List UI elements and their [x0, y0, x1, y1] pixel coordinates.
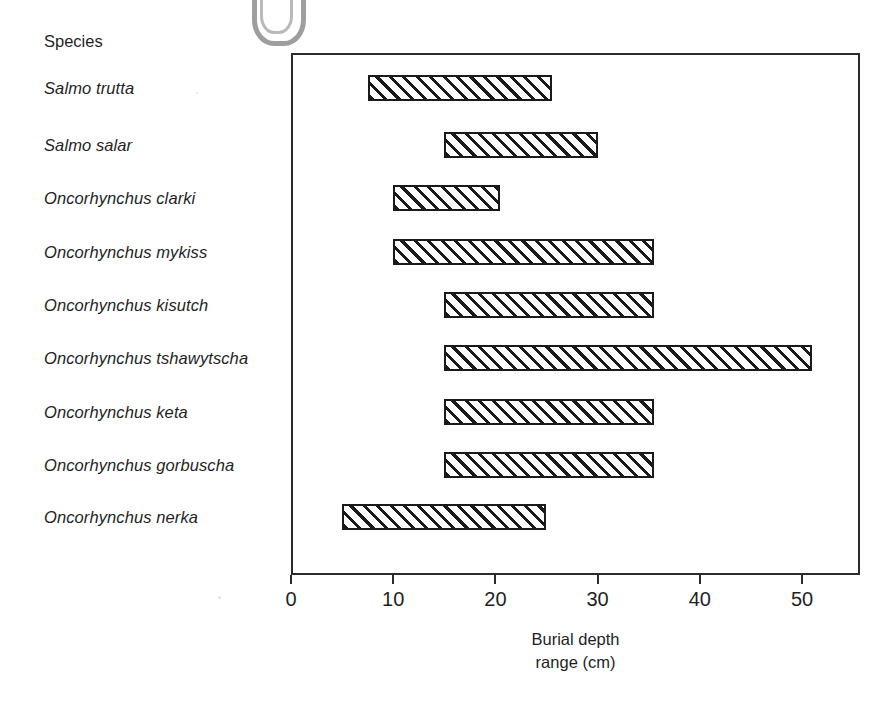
chart-page: Species Salmo truttaSalmo salarOncorhync…	[0, 0, 893, 712]
range-bar	[393, 185, 500, 211]
species-label: Oncorhynchus tshawytscha	[44, 349, 248, 368]
x-axis-tick	[699, 575, 701, 584]
species-label: Oncorhynchus keta	[44, 403, 188, 422]
x-axis-tick-label: 20	[484, 588, 506, 611]
range-bar	[444, 399, 654, 425]
x-axis-title: Burial depth range (cm)	[291, 628, 860, 674]
range-bar	[368, 75, 552, 101]
x-axis-title-line-2: range (cm)	[291, 651, 860, 674]
paperclip-scan-artifact-inner	[260, 0, 293, 34]
range-bar	[444, 452, 654, 478]
range-bar	[342, 504, 546, 530]
x-axis-tick-label: 30	[586, 588, 608, 611]
species-label: Oncorhynchus clarki	[44, 189, 195, 208]
scan-speckle	[218, 596, 221, 599]
species-label: Oncorhynchus gorbuscha	[44, 456, 234, 475]
species-label: Oncorhynchus kisutch	[44, 296, 208, 315]
species-label: Oncorhynchus nerka	[44, 508, 198, 527]
x-axis-tick	[801, 575, 803, 584]
x-axis-tick	[290, 575, 292, 584]
species-label: Salmo trutta	[44, 79, 134, 98]
scan-speckle	[196, 92, 198, 94]
x-axis-tick-label: 50	[791, 588, 813, 611]
range-bar	[444, 292, 654, 318]
x-axis-tick-label: 40	[689, 588, 711, 611]
x-axis-title-line-1: Burial depth	[291, 628, 860, 651]
x-axis-tick	[494, 575, 496, 584]
x-axis-tick	[392, 575, 394, 584]
x-axis-tick-label: 0	[285, 588, 296, 611]
x-axis-tick	[597, 575, 599, 584]
range-bar	[393, 239, 654, 265]
x-axis-tick-label: 10	[382, 588, 404, 611]
species-label: Oncorhynchus mykiss	[44, 243, 207, 262]
species-label: Salmo salar	[44, 136, 132, 155]
range-bar	[444, 345, 812, 371]
species-column-header: Species	[44, 32, 103, 51]
range-bar	[444, 132, 597, 158]
